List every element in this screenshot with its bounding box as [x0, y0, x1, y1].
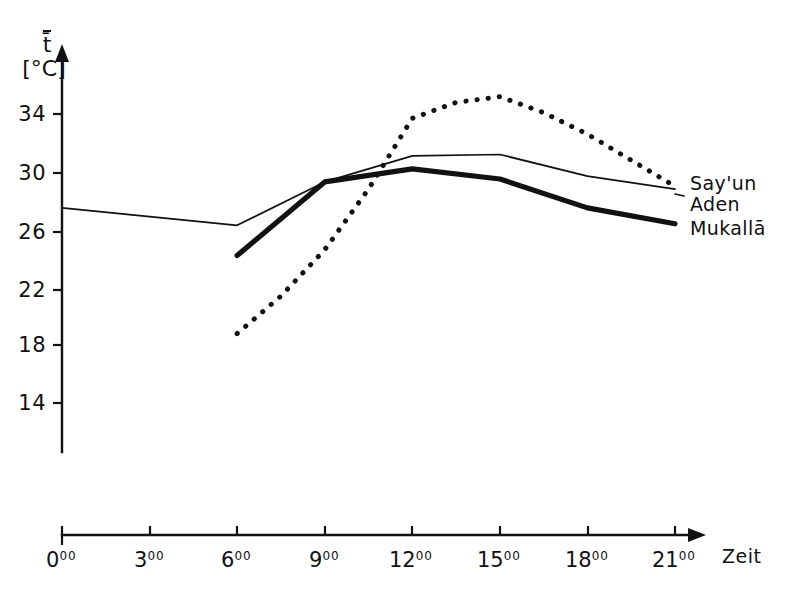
x-tick-label-21-hour: 21 [652, 548, 679, 572]
x-tick-label-0-hour: 0 [46, 548, 59, 572]
x-tick-label-15-minutes: 00 [504, 549, 521, 563]
x-tick-label-12-minutes: 00 [416, 549, 433, 563]
x-tick-label-3: 300 [134, 548, 165, 572]
x-tick-label-6-hour: 6 [221, 548, 234, 572]
series-line-sayun [237, 97, 675, 334]
x-axis-title: Zeit [722, 545, 761, 567]
series-line-aden [62, 155, 675, 226]
x-tick-label-12: 1200 [389, 548, 433, 572]
y-tick-label-18: 18 [0, 333, 46, 357]
x-tick-label-3-hour: 3 [134, 548, 147, 572]
y-axis-title: t̄ [22, 30, 72, 57]
series-line-mukalla [237, 169, 675, 256]
x-tick-label-15-hour: 15 [477, 548, 504, 572]
x-tick-label-0-minutes: 00 [59, 549, 76, 563]
y-axis-title-symbol: t̄ [43, 30, 52, 56]
x-tick-label-9-minutes: 00 [322, 549, 339, 563]
x-tick-label-9-hour: 9 [309, 548, 322, 572]
x-tick-label-18: 1800 [565, 548, 609, 572]
y-tick-label-22: 22 [0, 278, 46, 302]
x-axis-arrow-icon [688, 528, 706, 542]
y-tick-label-30: 30 [0, 161, 46, 185]
x-tick-label-3-minutes: 00 [147, 549, 164, 563]
x-tick-label-21-minutes: 00 [679, 549, 696, 563]
x-tick-label-0: 000 [46, 548, 77, 572]
x-tick-label-18-hour: 18 [565, 548, 592, 572]
x-tick-label-15: 1500 [477, 548, 521, 572]
x-tick-label-6-minutes: 00 [234, 549, 251, 563]
x-tick-label-21: 2100 [652, 548, 696, 572]
legend-label-mukalla: Mukallā [690, 218, 766, 239]
y-tick-label-26: 26 [0, 220, 46, 244]
chart-figure: t̄ [°C] 34 30 26 22 18 14 000 300 600 90… [0, 0, 801, 612]
x-tick-label-18-minutes: 00 [592, 549, 609, 563]
y-tick-label-14: 14 [0, 391, 46, 415]
chart-plot-area [0, 0, 801, 612]
x-tick-label-9: 900 [309, 548, 340, 572]
x-tick-label-6: 600 [221, 548, 252, 572]
legend-leader-aden [675, 194, 684, 196]
y-axis-unit: [°C] [14, 56, 74, 81]
x-tick-label-12-hour: 12 [389, 548, 416, 572]
legend-label-aden: Aden [690, 194, 740, 215]
y-tick-label-34: 34 [0, 102, 46, 126]
legend-label-sayun: Say'un [690, 173, 757, 194]
